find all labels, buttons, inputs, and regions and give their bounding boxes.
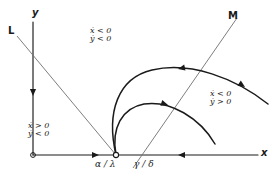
x-axis-label: x (261, 148, 267, 159)
x-axis-flow-left-arrow (92, 152, 99, 158)
region-lower-left-ydot: ẏ < 0 (28, 130, 49, 138)
region-upper-ydot: ẏ < 0 (90, 35, 111, 43)
region-annotation-upper: ẋ < 0 ẏ < 0 (90, 27, 111, 44)
y-axis-label: y (32, 8, 39, 19)
x-tick-label-gamma-delta: γ / δ (134, 160, 154, 169)
inner-trajectory-curve (115, 103, 215, 155)
outer-trajectory-curve (113, 68, 268, 155)
y-axis-flow-arrow (30, 89, 36, 96)
region-annotation-right: ẋ < 0 ẏ > 0 (210, 90, 231, 107)
trajectory-direction-arrow (160, 100, 169, 108)
x-axis-flow-right-arrow (178, 152, 185, 158)
trajectories-group (113, 68, 268, 155)
equilibrium-point-marker (113, 152, 118, 157)
region-annotation-lower-left: ẋ > 0 ẏ < 0 (28, 122, 49, 139)
x-tick-label-alpha-lambda: α / λ (95, 160, 116, 169)
nullcline-label-L: L (8, 26, 14, 37)
phase-plane-figure: y x L M α / λ γ / δ ẋ < 0 ẏ < 0 ẋ > 0 ẏ … (0, 0, 275, 183)
nullclines-group (17, 18, 237, 168)
figure-canvas (0, 0, 275, 183)
nullcline-label-M: M (228, 11, 238, 22)
region-right-ydot: ẏ > 0 (210, 98, 231, 106)
